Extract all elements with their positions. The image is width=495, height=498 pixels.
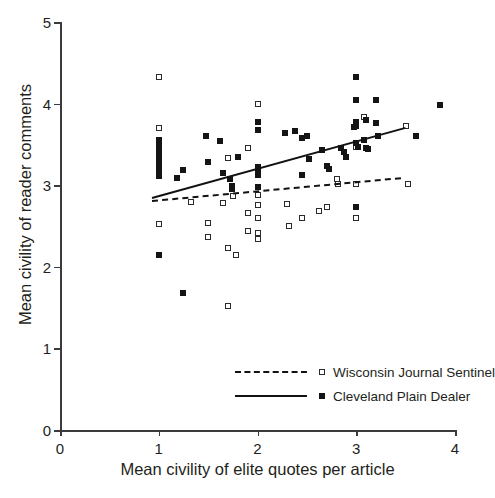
y-tick-label: 1 [43, 340, 51, 357]
data-point [156, 252, 162, 258]
x-tick-mark [258, 430, 260, 436]
data-point [156, 221, 162, 227]
data-point [353, 74, 359, 80]
data-point [225, 303, 231, 309]
data-point [255, 202, 261, 208]
legend-item-label: Cleveland Plain Dealer [333, 389, 470, 404]
trend-line [152, 177, 401, 202]
x-tick-label: 3 [352, 440, 360, 457]
data-point [324, 204, 330, 210]
data-point [353, 215, 359, 221]
data-point [217, 138, 223, 144]
x-tick-label: 0 [56, 440, 64, 457]
y-tick-label: 4 [43, 95, 51, 112]
data-point [355, 144, 361, 150]
data-point [156, 74, 162, 80]
data-point [255, 119, 261, 125]
y-tick-mark [54, 104, 60, 106]
x-tick-mark [60, 430, 62, 436]
data-point [156, 173, 162, 179]
y-axis-title: Mean civility of reader comments [16, 25, 35, 385]
data-point [180, 167, 186, 173]
legend-line-sample [235, 371, 307, 373]
data-point [245, 145, 251, 151]
data-point [284, 201, 290, 207]
data-point [180, 290, 186, 296]
data-point [205, 159, 211, 165]
legend-item: Cleveland Plain Dealer [235, 384, 495, 408]
data-point [174, 175, 180, 181]
data-point [245, 210, 251, 216]
data-point [286, 223, 292, 229]
data-point [282, 130, 288, 136]
data-point [255, 127, 261, 133]
data-point [255, 101, 261, 107]
data-point [220, 200, 226, 206]
legend-line-sample [235, 395, 307, 397]
data-point [363, 117, 369, 123]
data-point [203, 133, 209, 139]
data-point [373, 120, 379, 126]
data-point [343, 154, 349, 160]
data-point [235, 154, 241, 160]
x-tick-mark [159, 430, 161, 436]
data-point [220, 170, 226, 176]
data-point [255, 172, 261, 178]
data-point [299, 215, 305, 221]
data-point [437, 102, 443, 108]
legend-marker-swatch [319, 369, 325, 375]
y-tick-mark [54, 267, 60, 269]
data-point [205, 220, 211, 226]
legend-item-label: Wisconsin Journal Sentinel [333, 365, 495, 380]
x-tick-mark [356, 430, 358, 436]
data-point [353, 97, 359, 103]
x-tick-label: 1 [155, 440, 163, 457]
data-point [306, 156, 312, 162]
y-tick-label: 3 [43, 177, 51, 194]
data-point [326, 166, 332, 172]
data-point [365, 146, 371, 152]
data-point [205, 234, 211, 240]
data-point [353, 123, 359, 129]
x-tick-mark [455, 430, 457, 436]
data-point [255, 236, 261, 242]
data-point [405, 181, 411, 187]
data-point [225, 245, 231, 251]
data-point [255, 184, 261, 190]
x-tick-label: 4 [451, 440, 459, 457]
x-axis-title: Mean civility of elite quotes per articl… [60, 460, 455, 479]
y-tick-label: 5 [43, 14, 51, 31]
data-point [245, 228, 251, 234]
data-point [188, 199, 194, 205]
data-point [353, 204, 359, 210]
data-point [233, 252, 239, 258]
y-axis-line [60, 22, 62, 430]
data-point [316, 208, 322, 214]
y-tick-label: 0 [43, 422, 51, 439]
data-point [156, 125, 162, 131]
legend-item: Wisconsin Journal Sentinel [235, 360, 495, 384]
chart-legend: Wisconsin Journal SentinelCleveland Plai… [235, 360, 495, 408]
y-tick-mark [54, 185, 60, 187]
data-point [304, 133, 310, 139]
data-point [413, 133, 419, 139]
x-tick-label: 2 [253, 440, 261, 457]
data-point [225, 155, 231, 161]
legend-marker-swatch [319, 393, 325, 399]
data-point [255, 192, 261, 198]
y-tick-mark [54, 22, 60, 24]
data-point [292, 128, 298, 134]
y-tick-label: 2 [43, 258, 51, 275]
y-tick-mark [54, 348, 60, 350]
data-point [373, 97, 379, 103]
data-point [299, 172, 305, 178]
data-point [229, 186, 235, 192]
data-point [255, 215, 261, 221]
